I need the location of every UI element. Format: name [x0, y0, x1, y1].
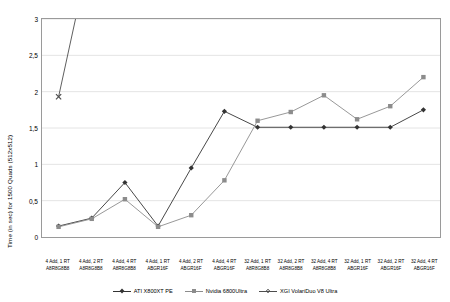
y-tick-label: 1 [34, 161, 38, 168]
y-tick-label: 0,5 [29, 197, 38, 204]
data-point [222, 178, 226, 182]
chart-container: Time (in sec) for 1500 Quads (512x512) 0… [0, 0, 450, 302]
data-point [156, 225, 160, 229]
data-point [421, 75, 425, 79]
x-axis-label: 4 Add, 2 RTA8R8G8B8 [74, 258, 107, 280]
legend-label: XGI VolariDuo V8 Ultra [280, 288, 337, 294]
x-axis-labels: 4 Add, 1 RTA8R8G8B84 Add, 2 RTA8R8G8B84 … [41, 258, 441, 280]
y-tick-label: 1,5 [29, 125, 38, 132]
data-point [189, 213, 193, 217]
y-tick-label: 0 [34, 234, 38, 241]
x-axis-label: 4 Add, 2 RTABGR16F [174, 258, 207, 280]
x-axis-label-line1: 4 Add, 2 RT [79, 259, 103, 264]
x-axis-label-line1: 4 Add, 1 RT [46, 259, 70, 264]
x-axis-label-line1: 4 Add, 2 RT [179, 259, 203, 264]
y-axis-title: Time (in sec) for 1500 Quads (512x512) [6, 0, 18, 248]
x-axis-label-line2: A8R8G8B8 [241, 265, 274, 272]
x-axis-label-line1: 4 Add, 4 RT [112, 259, 136, 264]
legend-label: ATI X800XT PE [134, 288, 173, 294]
series-line [59, 110, 424, 226]
data-point [56, 225, 60, 229]
x-axis-label-line2: ABGR16F [341, 265, 374, 272]
series-line [59, 77, 424, 227]
data-point [388, 104, 392, 108]
x-axis-label-line1: 32 Add, 1 RT [344, 259, 371, 264]
x-axis-label: 32 Add, 2 RTA8R8G8B8 [274, 258, 307, 280]
x-axis-label: 32 Add, 1 RTABGR16F [341, 258, 374, 280]
x-axis-label-line1: 4 Add, 4 RT [212, 259, 236, 264]
y-tick-label: 3 [34, 16, 38, 23]
legend-item[interactable]: ATI X800XT PE [113, 288, 173, 294]
plot-svg [42, 19, 440, 237]
legend-marker-icon [185, 288, 203, 294]
x-axis-label: 4 Add, 4 RTA8R8G8B8 [108, 258, 141, 280]
x-axis-label-line2: ABGR16F [374, 265, 407, 272]
x-axis-label-line2: A8R8G8B8 [74, 265, 107, 272]
x-axis-label-line1: 32 Add, 1 RT [244, 259, 271, 264]
legend-item[interactable]: Nvidia 6800Ultra [185, 288, 247, 294]
data-point [289, 110, 293, 114]
x-axis-label-line2: A8R8G8B8 [108, 265, 141, 272]
x-axis-label: 4 Add, 4 RTABGR16F [208, 258, 241, 280]
data-point [189, 165, 194, 170]
chart-legend: ATI X800XT PENvidia 6800UltraXGI VolariD… [0, 284, 450, 298]
data-point [288, 125, 293, 130]
series-line [59, 19, 77, 97]
data-point [222, 109, 227, 114]
data-point [90, 217, 94, 221]
y-axis-ticks: 0 0,5 1 1,5 2 2,5 3 [18, 0, 38, 302]
x-axis-label: 32 Add, 1 RTA8R8G8B8 [241, 258, 274, 280]
legend-label: Nvidia 6800Ultra [206, 288, 247, 294]
data-point [321, 125, 326, 130]
x-axis-label-line1: 32 Add, 2 RT [278, 259, 305, 264]
x-axis-label-line2: ABGR16F [408, 265, 441, 272]
x-axis-label-line2: A8R8G8B8 [274, 265, 307, 272]
y-tick-label: 2,5 [29, 52, 38, 59]
x-axis-label-line2: ABGR16F [141, 265, 174, 272]
data-point [322, 93, 326, 97]
x-axis-label: 32 Add, 4 RTABGR16F [408, 258, 441, 280]
data-point [123, 197, 127, 201]
x-axis-label-line1: 32 Add, 2 RT [378, 259, 405, 264]
x-axis-label-line2: ABGR16F [208, 265, 241, 272]
legend-item[interactable]: XGI VolariDuo V8 Ultra [259, 288, 337, 294]
data-point [355, 117, 359, 121]
data-point [388, 125, 393, 130]
x-axis-label-line1: 4 Add, 1 RT [146, 259, 170, 264]
x-axis-label-line1: 32 Add, 4 RT [311, 259, 338, 264]
x-axis-label-line2: ABGR16F [174, 265, 207, 272]
plot-area [41, 18, 441, 238]
x-axis-label: 32 Add, 2 RTABGR16F [374, 258, 407, 280]
data-point [255, 119, 259, 123]
legend-marker-icon [259, 288, 277, 294]
x-axis-label: 32 Add, 4 RTA8R8G8B8 [308, 258, 341, 280]
data-point [255, 125, 260, 130]
data-point [421, 107, 426, 112]
x-axis-label-line2: A8R8G8B8 [308, 265, 341, 272]
x-axis-label: 4 Add, 1 RTA8R8G8B8 [41, 258, 74, 280]
data-point [354, 125, 359, 130]
legend-marker-icon [113, 288, 131, 294]
x-axis-label: 4 Add, 1 RTABGR16F [141, 258, 174, 280]
x-axis-label-line1: 32 Add, 4 RT [411, 259, 438, 264]
x-axis-label-line2: A8R8G8B8 [41, 265, 74, 272]
y-tick-label: 2 [34, 88, 38, 95]
